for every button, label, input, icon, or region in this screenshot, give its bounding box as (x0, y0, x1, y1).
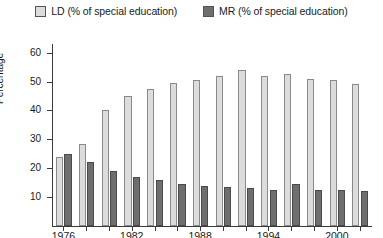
bar-ld (79, 144, 86, 226)
x-axis-tick-label: 1994 (257, 231, 280, 238)
bar-group (167, 44, 190, 226)
x-axis-tick (314, 227, 315, 231)
bar-mr (156, 180, 163, 226)
bar-ld (284, 74, 291, 226)
bar-group (144, 44, 167, 226)
x-axis-tick (177, 227, 178, 231)
x-axis-tick (109, 227, 110, 231)
bar-ld (352, 84, 359, 226)
y-axis-tick (47, 139, 52, 140)
bar-ld (56, 157, 63, 226)
y-axis-tick-label: 60 (30, 48, 41, 58)
x-axis-tick-label: 1988 (188, 231, 211, 238)
x-axis-tick (86, 227, 87, 231)
bar-mr (338, 190, 345, 226)
legend-label-ld: LD (% of special education) (51, 6, 177, 17)
bar-groups (53, 44, 372, 226)
bar-group (235, 44, 258, 226)
bar-group (190, 44, 213, 226)
x-axis-ticks: 19761982198819942000 (52, 227, 372, 238)
bar-group (258, 44, 281, 226)
bar-mr (87, 162, 94, 226)
y-axis-tick-label: 40 (30, 105, 41, 115)
bar-mr (110, 171, 117, 226)
y-axis-tick-label: 30 (30, 134, 41, 144)
plot-area (52, 44, 372, 227)
x-axis-tick (291, 227, 292, 231)
bar-group (349, 44, 372, 226)
bar-mr (64, 154, 71, 226)
bar-ld (102, 110, 109, 226)
legend-swatch-icon-ld (35, 6, 46, 17)
y-axis-tick-labels: 102030405060 (0, 44, 48, 227)
bar-ld (216, 76, 223, 226)
x-axis-tick (360, 227, 361, 231)
bar-group (213, 44, 236, 226)
y-axis-tick-label: 20 (30, 163, 41, 173)
bar-group (76, 44, 99, 226)
x-axis-tick (155, 227, 156, 231)
bar-mr (201, 186, 208, 226)
x-axis-tick (246, 227, 247, 231)
legend-swatch-icon-mr (203, 6, 214, 17)
legend-item-ld: LD (% of special education) (35, 6, 177, 17)
bar-ld (124, 96, 131, 226)
y-axis-tick (47, 82, 52, 83)
bar-mr (133, 177, 140, 226)
bar-ld (238, 70, 245, 226)
x-axis-tick-label: 1976 (52, 231, 75, 238)
bar-mr (270, 190, 277, 226)
y-axis-tick (47, 197, 52, 198)
chart-root: LD (% of special education) MR (% of spe… (0, 0, 383, 238)
bar-group (53, 44, 76, 226)
bar-group (326, 44, 349, 226)
legend-item-mr: MR (% of special education) (203, 6, 348, 17)
y-axis-tick (47, 110, 52, 111)
y-axis-tick-label: 10 (30, 192, 41, 202)
legend-label-mr: MR (% of special education) (219, 6, 348, 17)
bar-ld (170, 83, 177, 226)
bar-ld (261, 76, 268, 226)
bar-mr (292, 184, 299, 226)
bar-mr (178, 184, 185, 226)
bar-group (281, 44, 304, 226)
bar-group (99, 44, 122, 226)
bar-ld (147, 89, 154, 226)
bar-ld (193, 80, 200, 226)
bar-mr (224, 187, 231, 226)
bar-group (121, 44, 144, 226)
x-axis-tick-label: 2000 (325, 231, 348, 238)
y-axis-tick (47, 53, 52, 54)
bar-mr (315, 190, 322, 226)
bar-mr (361, 191, 368, 226)
x-axis-tick-label: 1982 (120, 231, 143, 238)
bar-group (304, 44, 327, 226)
bar-mr (247, 188, 254, 226)
y-axis-tick-label: 50 (30, 77, 41, 87)
bar-ld (307, 79, 314, 226)
bar-ld (330, 80, 337, 226)
y-axis-tick (47, 168, 52, 169)
x-axis-tick (223, 227, 224, 231)
chart-legend: LD (% of special education) MR (% of spe… (0, 6, 383, 17)
